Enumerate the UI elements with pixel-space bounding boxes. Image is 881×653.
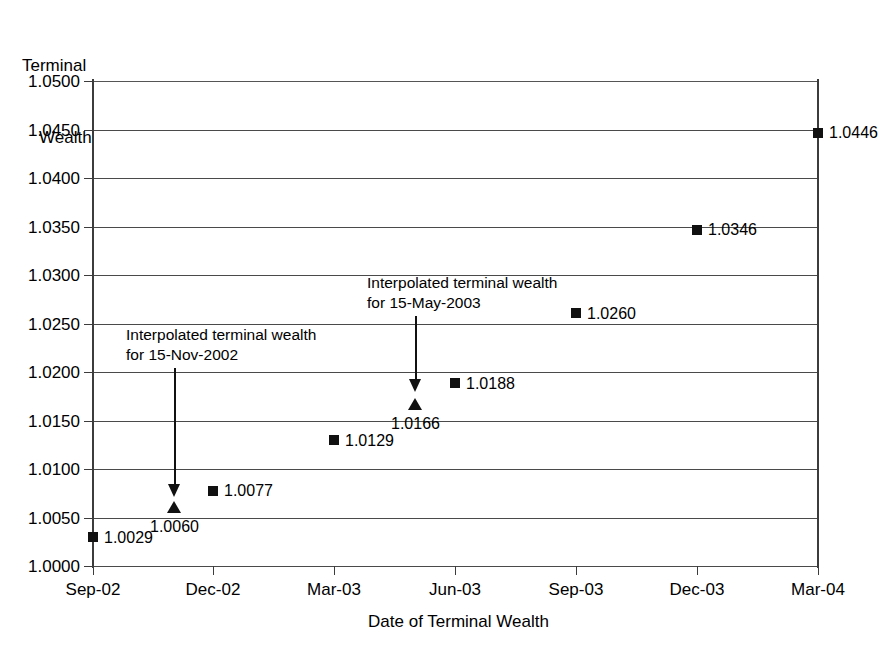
data-point-label: 1.0129 — [345, 433, 394, 449]
gridline — [92, 518, 818, 519]
x-tick — [93, 566, 94, 575]
data-point-marker[interactable] — [208, 486, 218, 496]
gridline — [92, 178, 818, 179]
plot-area — [92, 81, 818, 566]
y-tick-label: 1.0100 — [2, 461, 80, 478]
x-tick — [213, 566, 214, 575]
x-tick-label: Sep-03 — [516, 580, 636, 600]
gridline — [92, 421, 818, 422]
data-point-label: 1.0446 — [829, 125, 878, 141]
y-tick — [84, 324, 93, 325]
x-tick — [334, 566, 335, 575]
y-tick — [84, 372, 93, 373]
x-tick — [576, 566, 577, 575]
x-axis-title-text: Date of Terminal Wealth — [332, 612, 549, 631]
y-tick — [84, 469, 93, 470]
data-point-label: 1.0260 — [587, 306, 636, 322]
y-tick — [84, 566, 93, 567]
data-point-marker[interactable] — [571, 308, 581, 318]
y-tick — [84, 227, 93, 228]
annotation-line1: Interpolated terminal wealth — [367, 273, 557, 293]
annotation-text: Interpolated terminal wealth for 15-May-… — [367, 273, 557, 313]
x-tick — [818, 566, 819, 575]
y-tick-label: 1.0150 — [2, 413, 80, 430]
y-tick-label: 1.0000 — [2, 558, 80, 575]
x-tick-label: Dec-02 — [153, 580, 273, 600]
annotation-arrow-shaft — [174, 368, 176, 486]
x-tick — [455, 566, 456, 575]
annotation-line1: Interpolated terminal wealth — [126, 325, 316, 345]
y-tick — [84, 275, 93, 276]
gridline — [92, 372, 818, 373]
data-point-marker[interactable] — [813, 128, 823, 138]
y-tick-label: 1.0400 — [2, 170, 80, 187]
y-tick — [84, 81, 93, 82]
y-tick — [84, 518, 93, 519]
gridline — [92, 469, 818, 470]
y-tick-label: 1.0050 — [2, 510, 80, 527]
x-tick-label: Dec-03 — [637, 580, 757, 600]
gridline — [92, 81, 818, 82]
x-tick — [697, 566, 698, 575]
annotation-text: Interpolated terminal wealth for 15-Nov-… — [126, 325, 316, 365]
y-axis-tick-labels: 1.0500 1.0450 1.0400 1.0350 1.0300 1.025… — [0, 0, 80, 653]
annotation-arrow-head — [168, 484, 180, 497]
interpolated-point-marker[interactable] — [408, 398, 422, 410]
chart-canvas: Terminal Wealth 1.0500 1.0450 1.0400 — [0, 0, 881, 653]
x-axis-title: Date of Terminal Wealth — [0, 612, 881, 632]
annotation-line2: for 15-Nov-2002 — [126, 345, 316, 365]
y-tick-label: 1.0250 — [2, 316, 80, 333]
interpolated-point-label: 1.0060 — [150, 519, 199, 535]
data-point-label: 1.0346 — [708, 222, 757, 238]
data-point-marker[interactable] — [692, 225, 702, 235]
y-tick-label: 1.0350 — [2, 219, 80, 236]
data-point-marker[interactable] — [88, 532, 98, 542]
annotation-line2: for 15-May-2003 — [367, 293, 557, 313]
x-tick-label: Mar-04 — [758, 580, 878, 600]
data-point-marker[interactable] — [329, 435, 339, 445]
y-tick-label: 1.0450 — [2, 122, 80, 139]
x-tick-label: Sep-02 — [33, 580, 153, 600]
y-tick — [84, 178, 93, 179]
interpolated-point-marker[interactable] — [167, 501, 181, 513]
y-tick-label: 1.0500 — [2, 73, 80, 90]
data-point-label: 1.0029 — [104, 530, 153, 546]
gridline — [92, 130, 818, 131]
y-tick — [84, 421, 93, 422]
y-tick — [84, 130, 93, 131]
y-tick-label: 1.0200 — [2, 364, 80, 381]
interpolated-point-label: 1.0166 — [391, 416, 440, 432]
data-point-marker[interactable] — [450, 378, 460, 388]
plot-right-edge — [817, 79, 819, 568]
y-tick-label: 1.0300 — [2, 267, 80, 284]
data-point-label: 1.0077 — [224, 483, 273, 499]
x-tick-label: Mar-03 — [274, 580, 394, 600]
annotation-arrow-head — [409, 379, 421, 392]
x-tick-label: Jun-03 — [395, 580, 515, 600]
data-point-label: 1.0188 — [466, 376, 515, 392]
annotation-arrow-shaft — [415, 316, 417, 381]
